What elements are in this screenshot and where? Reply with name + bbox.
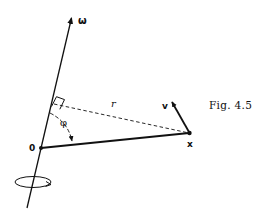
origin-dot xyxy=(39,146,43,150)
position-vector xyxy=(41,133,189,148)
origin-label: 0 xyxy=(29,143,35,153)
omega-label: ω xyxy=(78,15,87,26)
figure-caption: Fig. 4.5 xyxy=(209,99,252,111)
right-angle-marker xyxy=(52,97,65,110)
velocity-vector xyxy=(172,102,189,132)
velocity-label: v xyxy=(162,101,168,111)
radius-dashed-line xyxy=(54,104,189,133)
rotation-diagram: ω 0 x v r φ Fig. 4.5 xyxy=(0,0,267,211)
angle-label: φ xyxy=(60,117,67,128)
radius-label: r xyxy=(111,98,117,109)
point-x-label: x xyxy=(187,139,193,149)
